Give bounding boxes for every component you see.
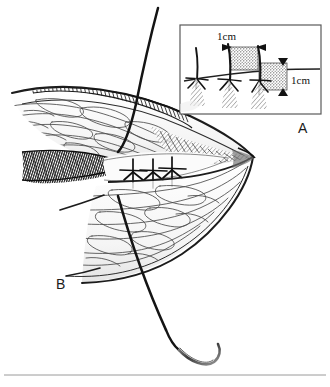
stipple-block-1 (230, 47, 258, 70)
panel-a-label: A (298, 120, 308, 136)
inset-panel-a: 1cm 1cm (180, 25, 321, 114)
measurement-label-horizontal: 1cm (217, 30, 236, 42)
surgical-figure: 1cm 1cm A B (0, 0, 330, 387)
panel-b-label: B (56, 276, 66, 292)
curved-needle (179, 344, 220, 364)
measurement-label-vertical: 1cm (291, 74, 310, 86)
illustration-canvas: 1cm 1cm (0, 0, 330, 387)
